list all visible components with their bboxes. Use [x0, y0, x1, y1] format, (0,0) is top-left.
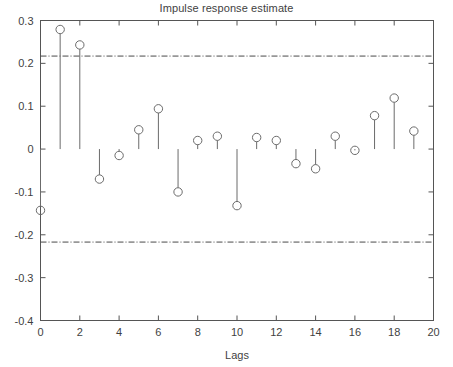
x-tick-label: 6 [155, 326, 161, 338]
x-tick-label: 10 [231, 326, 243, 338]
y-tick-label: 0.3 [18, 15, 33, 27]
x-tick-label: 14 [309, 326, 321, 338]
x-tick-label: 20 [427, 326, 439, 338]
x-tick-label: 16 [349, 326, 361, 338]
x-tick-label: 12 [270, 326, 282, 338]
x-tick-label: 0 [37, 326, 43, 338]
x-axis-title: Lags [225, 349, 249, 361]
y-tick-label: 0.2 [18, 57, 33, 69]
y-tick-label: -0.1 [15, 186, 34, 198]
chart-figure: Impulse response estimate -0.4-0.3-0.2-0… [0, 0, 453, 367]
x-tick-label: 4 [116, 326, 122, 338]
y-tick-label: 0 [27, 143, 33, 155]
y-tick-label: -0.2 [15, 229, 34, 241]
y-tick-label: -0.3 [15, 272, 34, 284]
y-tick-label: -0.4 [15, 315, 34, 327]
x-tick-label: 8 [195, 326, 201, 338]
y-tick-label: 0.1 [18, 100, 33, 112]
x-tick-label: 18 [388, 326, 400, 338]
impulse-response-plot: -0.4-0.3-0.2-0.100.10.20.3 0246810121416… [0, 0, 453, 367]
x-tick-label: 2 [77, 326, 83, 338]
